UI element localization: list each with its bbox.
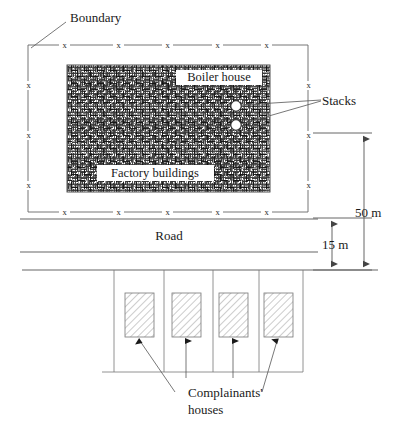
- complainants-label-line1: Complainants': [188, 385, 263, 400]
- house-rect: [219, 293, 248, 337]
- boundary-label: Boundary: [70, 10, 122, 25]
- house-rect: [125, 293, 154, 337]
- houses-area: [22, 270, 378, 392]
- road-label: Road: [155, 228, 183, 243]
- stack-marker: [231, 120, 241, 130]
- house-rect: [172, 293, 201, 337]
- factory-buildings-label: Factory buildings: [111, 166, 199, 180]
- fence-markers-right: x x x: [303, 80, 314, 190]
- dimension-label-15m: 15 m: [322, 237, 348, 252]
- boiler-house-label: Boiler house: [187, 70, 251, 84]
- house-rect: [264, 293, 293, 337]
- complainants-label-line2: houses: [188, 402, 223, 417]
- site-plan-canvas: x x x x x x x x x x: [0, 0, 398, 439]
- house-leader-line: [262, 341, 277, 392]
- dimension-label-50m: 50 m: [355, 205, 381, 220]
- stacks-label: Stacks: [322, 93, 356, 108]
- house-leader-line: [140, 341, 175, 392]
- fence-markers-left: x x x: [23, 80, 34, 190]
- site-plan-diagram: x x x x x x x x x x: [0, 0, 398, 439]
- stack-marker: [231, 101, 241, 111]
